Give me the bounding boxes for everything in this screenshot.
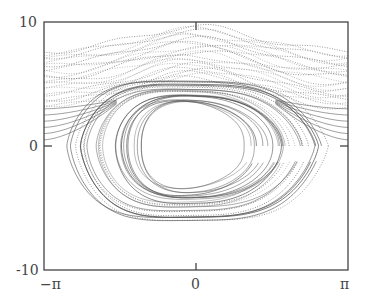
phase-portrait-chart — [0, 0, 369, 303]
trajectory — [128, 96, 273, 198]
trajectory — [122, 96, 283, 198]
y-tick-label-minus-10: -10 — [16, 263, 39, 277]
trajectory — [44, 63, 348, 91]
y-tick-label-10: 10 — [19, 15, 37, 29]
trajectory — [141, 102, 254, 193]
trajectory — [44, 26, 348, 56]
trajectory — [121, 100, 268, 196]
trajectory — [44, 36, 348, 67]
x-tick-label-minus-pi: −π — [40, 277, 61, 291]
trajectory-curves — [44, 25, 348, 221]
trajectory — [44, 46, 348, 77]
trajectory — [100, 92, 294, 206]
trajectory — [44, 55, 348, 85]
x-tick-label-0: 0 — [191, 277, 200, 291]
trajectory — [44, 67, 348, 97]
trajectory — [142, 101, 245, 189]
trajectory — [44, 51, 348, 83]
trajectory — [44, 104, 117, 140]
trajectory — [103, 91, 279, 202]
trajectory — [98, 90, 285, 207]
y-tick-label-0: 0 — [29, 139, 38, 153]
trajectory — [44, 71, 348, 104]
trajectory — [44, 34, 348, 64]
x-tick-label-pi: π — [340, 277, 349, 291]
